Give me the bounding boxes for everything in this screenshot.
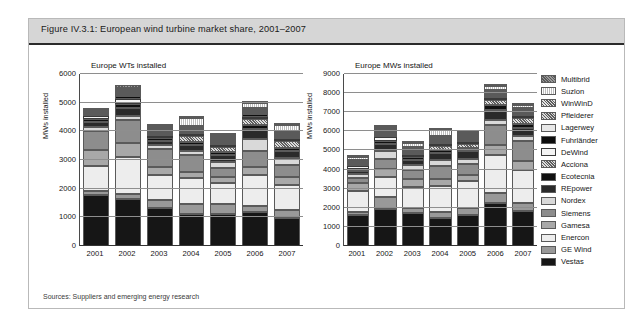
bar-segment xyxy=(242,175,268,206)
bar-segment xyxy=(274,151,300,158)
legend-item[interactable]: Ecotecnia xyxy=(541,171,621,183)
stacked-bar[interactable] xyxy=(484,74,506,246)
figure-title: Figure IV.3.1: European wind turbine mar… xyxy=(41,24,306,34)
gridline: 3000 xyxy=(344,188,537,189)
bar-segment xyxy=(147,167,173,176)
stacked-bar[interactable] xyxy=(242,74,268,246)
bar-segment xyxy=(179,214,205,246)
legend-item[interactable]: GE Wind xyxy=(541,244,621,256)
y-axis-tick-label: 9000 xyxy=(323,69,340,78)
legend-item[interactable]: Vestas xyxy=(541,256,621,268)
bar-segment xyxy=(147,208,173,246)
legend-item[interactable]: Siemens xyxy=(541,207,621,219)
y-axis-tick-label: 3000 xyxy=(59,155,76,164)
legend-item[interactable]: WinWinD xyxy=(541,97,621,109)
bar-segment xyxy=(347,215,369,246)
bar-segment xyxy=(374,159,396,169)
x-axis-tick-label: 2001 xyxy=(346,249,369,258)
stacked-bar[interactable] xyxy=(374,74,396,246)
bar-segment xyxy=(374,169,396,177)
gridline: 6000 xyxy=(80,73,303,74)
stacked-bar[interactable] xyxy=(115,74,141,246)
x-axis-labels-mws: 2001200220032004200520062007 xyxy=(343,249,537,258)
bar-segment xyxy=(429,186,451,212)
bar-segment xyxy=(457,181,479,209)
chart-panel-wts: Europe WTs installed MWs installed 01000… xyxy=(43,61,305,273)
bar-segment xyxy=(274,177,300,184)
y-axis-tick-label: 1000 xyxy=(323,221,340,230)
bar-segment xyxy=(457,215,479,246)
bar-segment xyxy=(457,151,479,159)
bar-segment xyxy=(115,143,141,157)
x-axis-tick-label: 2007 xyxy=(512,249,535,258)
bar-segment xyxy=(210,204,236,214)
stacked-bar[interactable] xyxy=(457,74,479,246)
y-axis-tick-label: 3000 xyxy=(323,183,340,192)
legend-swatch-icon xyxy=(541,209,556,217)
stacked-bar[interactable] xyxy=(512,74,534,246)
chart-panel-mws: Europe MWs installed MWs installed 01000… xyxy=(307,61,539,273)
legend-item[interactable]: Multibrid xyxy=(541,73,621,85)
legend-swatch-icon xyxy=(541,185,556,193)
gridline: 3000 xyxy=(80,159,303,160)
legend-item[interactable]: Lagerwey xyxy=(541,122,621,134)
legend-item[interactable]: REpower xyxy=(541,183,621,195)
bar-segment xyxy=(402,187,424,209)
legend-item[interactable]: Enercon xyxy=(541,231,621,243)
gridline: 4000 xyxy=(80,130,303,131)
stacked-bar[interactable] xyxy=(402,74,424,246)
plot-area-mws: 0100020003000400050006000700080009000 xyxy=(343,74,537,246)
y-axis-tick-label: 8000 xyxy=(323,88,340,97)
legend-label: Fuhrländer xyxy=(561,136,598,145)
stacked-bar[interactable] xyxy=(210,74,236,246)
stacked-bar[interactable] xyxy=(429,74,451,246)
legend-item[interactable]: Acciona xyxy=(541,158,621,170)
legend-item[interactable]: Pfleiderer xyxy=(541,110,621,122)
legend-swatch-icon xyxy=(541,75,556,83)
stacked-bar[interactable] xyxy=(347,74,369,246)
legend-swatch-icon xyxy=(541,124,556,132)
bar-segment xyxy=(429,179,451,187)
stacked-bar[interactable] xyxy=(274,74,300,246)
bar-segment xyxy=(274,141,300,148)
x-axis-tick-label: 2003 xyxy=(146,249,172,258)
legend-item[interactable]: Gamesa xyxy=(541,219,621,231)
legend-item[interactable]: Nordex xyxy=(541,195,621,207)
legend-swatch-icon xyxy=(541,99,556,107)
legend-label: Ecotecnia xyxy=(561,172,594,181)
legend-label: WinWinD xyxy=(561,99,593,108)
x-axis-tick-label: 2004 xyxy=(429,249,452,258)
legend-label: Acciona xyxy=(561,160,588,169)
legend-item[interactable]: Suzlon xyxy=(541,85,621,97)
bar-segment xyxy=(402,213,424,246)
stacked-bar[interactable] xyxy=(179,74,205,246)
y-axis-tick-label: 6000 xyxy=(323,126,340,135)
bar-segment xyxy=(429,218,451,246)
legend-item[interactable]: Fuhrländer xyxy=(541,134,621,146)
gridline: 6000 xyxy=(344,130,537,131)
x-axis-tick-label: 2002 xyxy=(114,249,140,258)
gridline: 1000 xyxy=(344,226,537,227)
y-axis-tick-label: 0 xyxy=(336,241,340,250)
y-axis-tick-label: 0 xyxy=(72,241,76,250)
y-axis-tick-label: 2000 xyxy=(59,183,76,192)
bar-segment xyxy=(512,128,534,136)
bar-segment xyxy=(402,179,424,186)
chart-legend: MultibridSuzlonWinWinDPfleidererLagerwey… xyxy=(541,73,621,268)
bar-segment xyxy=(83,131,109,150)
legend-swatch-icon xyxy=(541,258,556,266)
y-axis-tick-label: 4000 xyxy=(59,126,76,135)
legend-item[interactable]: DeWind xyxy=(541,146,621,158)
legend-label: Nordex xyxy=(561,196,585,205)
bar-segment xyxy=(374,151,396,159)
stacked-bar[interactable] xyxy=(147,74,173,246)
gridline: 7000 xyxy=(344,111,537,112)
legend-swatch-icon xyxy=(541,148,556,156)
y-axis-tick-label: 5000 xyxy=(59,97,76,106)
x-axis-tick-label: 2007 xyxy=(274,249,300,258)
legend-swatch-icon xyxy=(541,160,556,168)
bar-segment xyxy=(374,209,396,246)
bar-segment xyxy=(242,167,268,174)
legend-swatch-icon xyxy=(541,221,556,229)
stacked-bar[interactable] xyxy=(83,74,109,246)
